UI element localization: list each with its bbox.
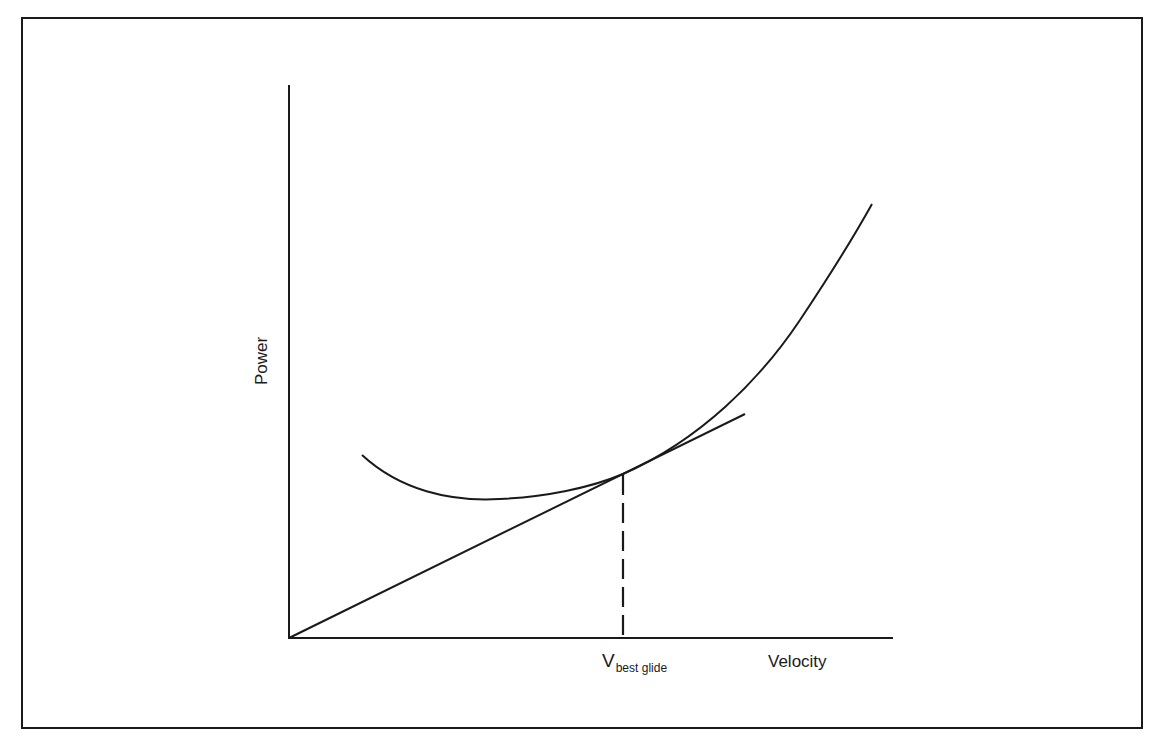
power-curve	[362, 204, 872, 499]
power-velocity-plot	[0, 0, 1158, 747]
tangent-line	[289, 414, 745, 638]
best-glide-label: Vbest glide	[602, 650, 667, 672]
y-axis-label: Power	[252, 337, 272, 385]
x-axis-label: Velocity	[768, 652, 827, 672]
best-glide-label-subscript: best glide	[616, 661, 667, 675]
best-glide-label-main: V	[602, 650, 615, 671]
